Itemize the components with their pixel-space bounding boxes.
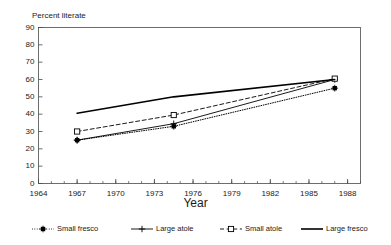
- axes-group: [39, 28, 361, 184]
- series-line: [77, 80, 335, 114]
- series-line: [77, 88, 335, 140]
- legend-label: Small atole: [245, 225, 282, 233]
- y-axis-tick-label: 30: [13, 128, 35, 136]
- x-axis-title: Year: [0, 196, 391, 210]
- plot-frame: [39, 28, 361, 184]
- dashed-line-square-marker-icon: [219, 222, 243, 236]
- series-line: [77, 79, 335, 132]
- chart-legend: Small frescoLarge atoleSmall atoleLarge …: [0, 222, 391, 238]
- y-axis-tick-label: 0: [13, 180, 35, 188]
- y-axis-tick-label: 20: [13, 145, 35, 153]
- series-line: [77, 80, 335, 141]
- solid-thick-line-icon: [300, 222, 324, 236]
- y-axis-tick-label: 50: [13, 93, 35, 101]
- legend-label: Large atole: [156, 225, 194, 233]
- y-axis-tick-label: 90: [13, 24, 35, 32]
- series-group: [74, 76, 338, 144]
- dotted-line-asterisk-marker-icon: [31, 222, 55, 236]
- series-markers: [74, 76, 338, 143]
- legend-label: Small fresco: [57, 225, 98, 233]
- y-axis-tick-label: 80: [13, 41, 35, 49]
- y-axis-tick-label: 70: [13, 58, 35, 66]
- legend-label: Large fresco: [326, 225, 368, 233]
- y-axis-tick-label: 60: [13, 76, 35, 84]
- data-point-marker-square: [171, 112, 176, 117]
- literacy-line-chart: Percent literate 0102030405060708090 196…: [0, 0, 391, 245]
- y-axis-tick-label: 10: [13, 162, 35, 170]
- solid-line-plus-marker-icon: [130, 222, 154, 236]
- y-axis-tick-label: 40: [13, 110, 35, 118]
- data-point-marker-square: [228, 226, 233, 231]
- data-point-marker-square: [75, 129, 80, 134]
